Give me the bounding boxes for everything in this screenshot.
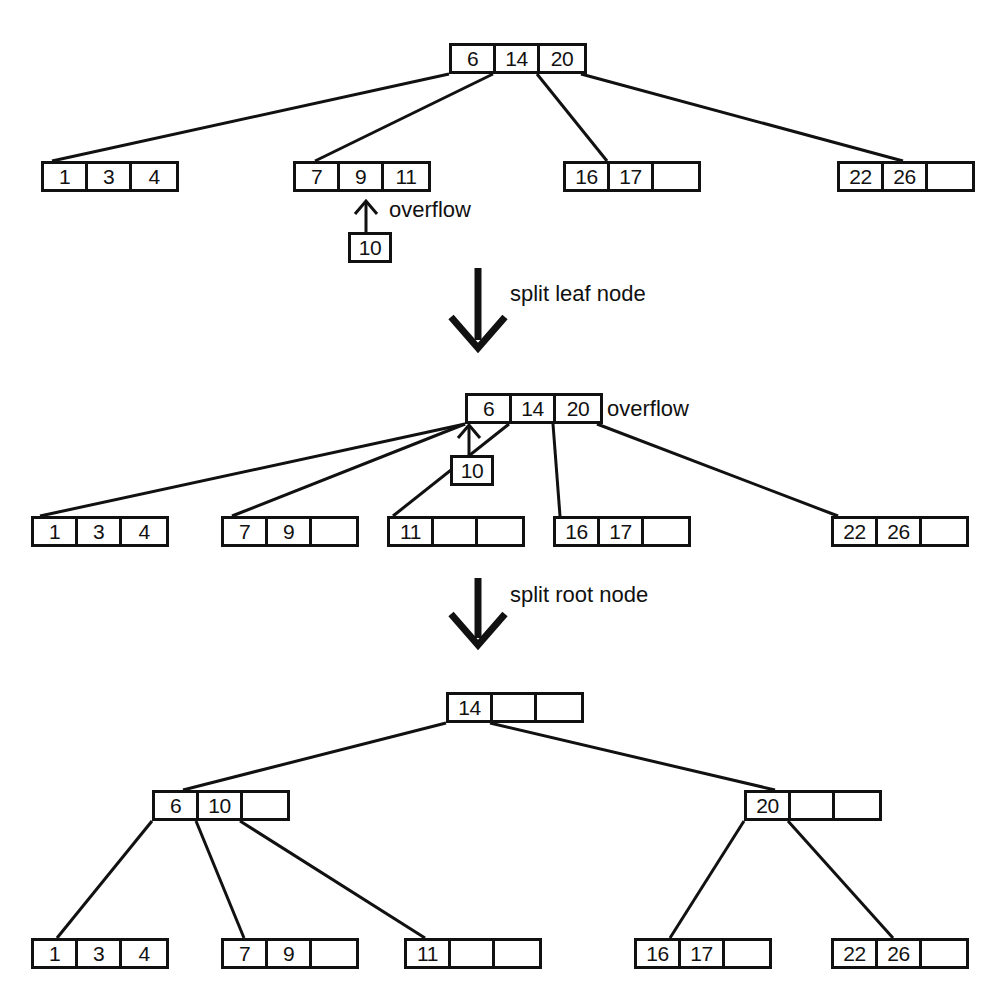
node-cell: 16 <box>566 164 610 189</box>
node-cell: 7 <box>224 519 268 544</box>
node-cell: 1 <box>34 519 78 544</box>
node-cell: 17 <box>600 519 644 544</box>
node-cell <box>835 793 879 818</box>
node-cell: 6 <box>155 793 199 818</box>
node-cell: 10 <box>199 793 243 818</box>
node-cell: 9 <box>340 164 384 189</box>
node-cell: 1 <box>34 941 78 966</box>
btree-leaf-2-stage1[interactable]: 7 9 11 <box>293 161 431 192</box>
node-cell <box>922 519 966 544</box>
btree-leaf-3-stage3[interactable]: 11 <box>404 938 542 969</box>
node-cell: 11 <box>384 164 428 189</box>
node-cell: 3 <box>78 519 122 544</box>
node-cell <box>791 793 835 818</box>
btree-leaf-4-stage1[interactable]: 22 26 <box>837 161 975 192</box>
node-cell: 11 <box>390 519 434 544</box>
node-cell: 20 <box>747 793 791 818</box>
node-cell: 20 <box>540 46 584 71</box>
node-cell: 14 <box>449 695 493 720</box>
node-cell <box>312 941 356 966</box>
node-cell: 3 <box>88 164 132 189</box>
transition-label-split-leaf: split leaf node <box>510 283 646 305</box>
btree-node-root-stage1[interactable]: 6 14 20 <box>449 43 587 74</box>
node-cell: 16 <box>637 941 681 966</box>
btree-leaf-3-stage1[interactable]: 16 17 <box>563 161 701 192</box>
btree-leaf-3-stage2[interactable]: 11 <box>387 516 525 547</box>
btree-leaf-1-stage1[interactable]: 1 3 4 <box>41 161 179 192</box>
node-cell: 17 <box>681 941 725 966</box>
node-cell: 17 <box>610 164 654 189</box>
node-cell <box>434 519 478 544</box>
node-cell <box>493 695 537 720</box>
btree-leaf-2-stage3[interactable]: 7 9 <box>221 938 359 969</box>
node-cell: 7 <box>296 164 340 189</box>
node-cell: 10 <box>351 235 389 260</box>
btree-overflow-box-stage1[interactable]: 10 <box>348 232 392 263</box>
node-cell <box>928 164 972 189</box>
node-cell: 6 <box>468 396 512 421</box>
btree-internal-left-stage3[interactable]: 6 10 <box>152 790 290 821</box>
node-cell <box>644 519 688 544</box>
node-cell <box>243 793 287 818</box>
node-cell: 14 <box>512 396 556 421</box>
node-cell: 26 <box>878 519 922 544</box>
node-cell: 11 <box>407 941 451 966</box>
btree-leaf-4-stage2[interactable]: 16 17 <box>553 516 691 547</box>
btree-overflow-box-stage2[interactable]: 10 <box>450 455 494 486</box>
btree-leaf-1-stage3[interactable]: 1 3 4 <box>31 938 169 969</box>
node-cell: 4 <box>132 164 176 189</box>
overflow-label-stage2: overflow <box>607 398 689 420</box>
node-cell <box>654 164 698 189</box>
overflow-label-stage1: overflow <box>389 199 471 221</box>
node-cell: 20 <box>556 396 600 421</box>
node-cell <box>537 695 581 720</box>
node-cell: 1 <box>44 164 88 189</box>
node-cell: 10 <box>453 458 491 483</box>
node-cell: 26 <box>878 941 922 966</box>
transition-label-split-root: split root node <box>510 584 648 606</box>
btree-node-root-stage2[interactable]: 6 14 20 <box>465 393 603 424</box>
node-cell <box>451 941 495 966</box>
btree-leaf-4-stage3[interactable]: 16 17 <box>634 938 772 969</box>
node-cell: 4 <box>122 941 166 966</box>
node-cell: 26 <box>884 164 928 189</box>
node-cell: 9 <box>268 941 312 966</box>
node-cell: 4 <box>122 519 166 544</box>
node-cell <box>478 519 522 544</box>
btree-leaf-5-stage3[interactable]: 22 26 <box>831 938 969 969</box>
btree-node-root-stage3[interactable]: 14 <box>446 692 584 723</box>
node-cell: 14 <box>496 46 540 71</box>
node-cell <box>312 519 356 544</box>
btree-leaf-5-stage2[interactable]: 22 26 <box>831 516 969 547</box>
node-cell: 22 <box>834 941 878 966</box>
node-cell: 7 <box>224 941 268 966</box>
page-caption-cropped <box>0 995 1000 1008</box>
node-cell: 6 <box>452 46 496 71</box>
node-cell <box>495 941 539 966</box>
btree-leaf-1-stage2[interactable]: 1 3 4 <box>31 516 169 547</box>
btree-internal-right-stage3[interactable]: 20 <box>744 790 882 821</box>
node-cell <box>725 941 769 966</box>
node-cell: 22 <box>834 519 878 544</box>
node-cell: 3 <box>78 941 122 966</box>
node-cell: 16 <box>556 519 600 544</box>
node-cell <box>922 941 966 966</box>
node-cell: 9 <box>268 519 312 544</box>
btree-leaf-2-stage2[interactable]: 7 9 <box>221 516 359 547</box>
connector-layer <box>0 0 1000 1008</box>
node-cell: 22 <box>840 164 884 189</box>
btree-diagram: 6 14 20 1 3 4 7 9 11 16 17 22 26 10 over… <box>0 0 1000 1008</box>
